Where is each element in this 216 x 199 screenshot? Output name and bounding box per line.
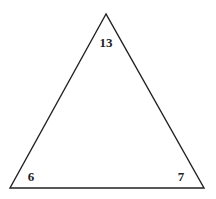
triangle-diagram: 13 6 7 [0,0,216,199]
top-vertex-label: 13 [100,35,114,50]
bottom-left-vertex-label: 6 [28,169,35,184]
bottom-right-vertex-label: 7 [178,169,185,184]
